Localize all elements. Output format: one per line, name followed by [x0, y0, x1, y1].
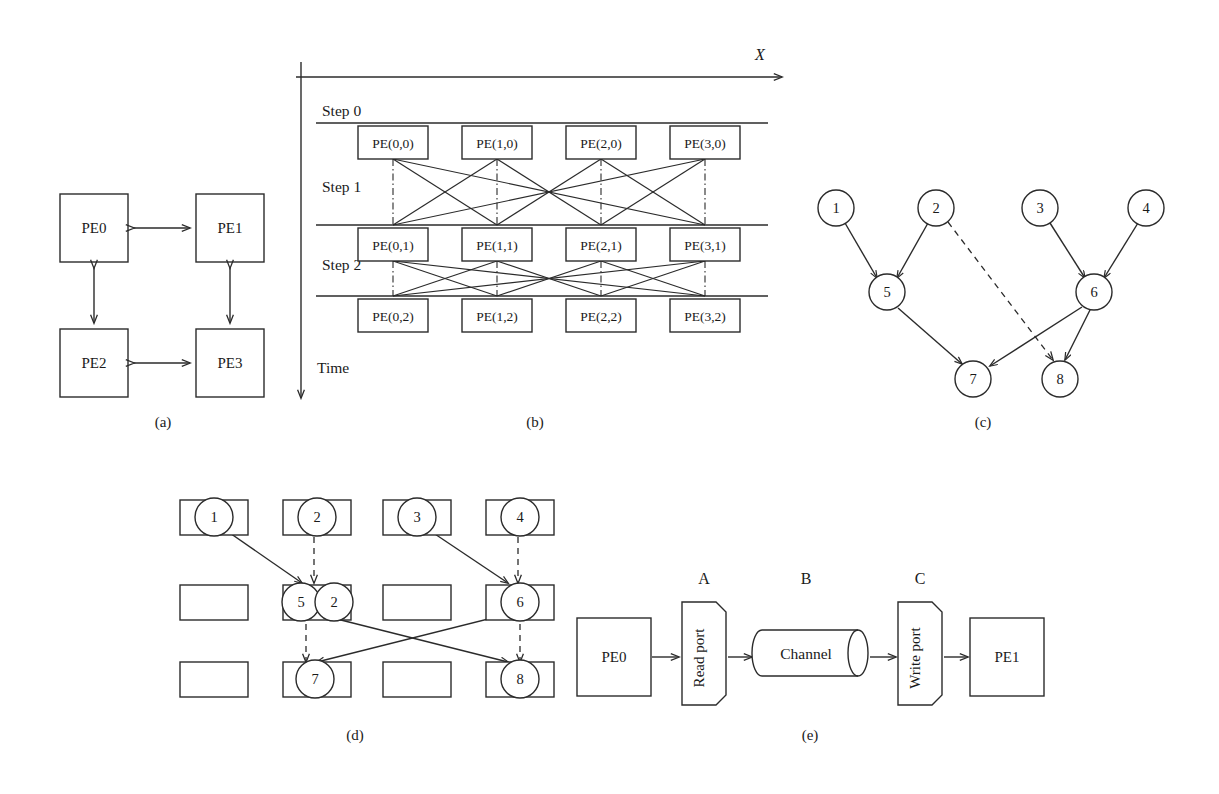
panel-b-cell-label-1-1: PE(1,1): [476, 238, 518, 253]
panel-b-axis-time-label: Time: [317, 359, 349, 376]
panel-b-cell-label-2-0: PE(0,2): [372, 309, 414, 324]
panel-c-edge-4-6: [1104, 223, 1138, 278]
panel-c-node-label-2: 2: [932, 200, 939, 216]
panel-c-node-label-4: 4: [1142, 200, 1150, 216]
figure-svg: PE0 PE1 PE2 PE3 (a) X Time Step 0 Step 1…: [0, 0, 1219, 794]
panel-e-label-pe0: PE0: [601, 649, 626, 665]
panel-b-crossings-0: [393, 159, 705, 225]
panel-d-node-label-4: 4: [516, 509, 524, 525]
panel-d-node-label-1: 1: [210, 509, 217, 525]
panel-c-node-label-1: 1: [832, 200, 839, 216]
panel-c-edge-6-7: [990, 307, 1082, 366]
panel-b-step-label-0: Step 0: [322, 102, 361, 119]
panel-c-edge-2-8: [948, 222, 1053, 360]
panel-e: PE0 Read port A Channel B Write port C: [577, 570, 1044, 744]
panel-d-slot-2-0: [180, 662, 248, 697]
panel-e-marker-c: C: [915, 570, 926, 587]
panel-c-edge-2-5: [897, 223, 928, 278]
panel-d-node-label-6: 6: [516, 594, 523, 610]
panel-a: PE0 PE1 PE2 PE3 (a): [60, 194, 264, 431]
panel-c-node-label-5: 5: [883, 284, 890, 300]
panel-b-cell-label-2-3: PE(3,2): [684, 309, 726, 324]
panel-d: 1 2 3 4 5 2 6 7 8 (d): [180, 498, 554, 744]
panel-b-cell-label-1-3: PE(3,1): [684, 238, 726, 253]
panel-d-node-label-8: 8: [516, 671, 523, 687]
panel-a-caption: (a): [155, 414, 172, 431]
panel-c-edge-1-5: [845, 223, 877, 278]
panel-c-edge-3-6: [1050, 223, 1085, 278]
panel-b-cell-label-0-3: PE(3,0): [684, 136, 726, 151]
panel-b-step-label-1: Step 1: [322, 178, 361, 195]
panel-b-crossings-1: [393, 261, 705, 296]
panel-b-cell-label-0-2: PE(2,0): [580, 136, 622, 151]
panel-c-node-label-6: 6: [1090, 284, 1097, 300]
panel-e-label-channel: Channel: [780, 645, 832, 662]
panel-d-node-label-2-copy: 2: [330, 594, 337, 610]
panel-d-node-label-3: 3: [413, 509, 420, 525]
panel-c-node-label-8: 8: [1056, 371, 1063, 387]
panel-b-cell-label-0-1: PE(1,0): [476, 136, 518, 151]
panel-a-label-pe1: PE1: [217, 220, 242, 236]
panel-c-edge-6-8: [1065, 310, 1090, 360]
panel-e-marker-b: B: [801, 570, 812, 587]
panel-e-label-pe1: PE1: [994, 649, 1019, 665]
panel-a-label-pe3: PE3: [217, 355, 242, 371]
panel-b: X Time Step 0 Step 1 Step 2: [296, 46, 782, 431]
panel-c: 1 2 3 4 5 6 7 8 (c): [818, 190, 1164, 431]
panel-b-cell-label-1-0: PE(0,1): [372, 238, 414, 253]
panel-d-slot-1-2: [383, 585, 451, 620]
panel-b-cell-label-0-0: PE(0,0): [372, 136, 414, 151]
panel-c-edge-5-7: [898, 308, 962, 364]
panel-c-caption: (c): [975, 414, 992, 431]
panel-c-node-label-3: 3: [1036, 200, 1043, 216]
panel-d-node-label-2: 2: [313, 509, 320, 525]
panel-b-caption: (b): [526, 414, 544, 431]
panel-e-label-write-port: Write port: [907, 626, 923, 688]
panel-b-step-label-2: Step 2: [322, 256, 361, 273]
panel-d-caption: (d): [346, 727, 364, 744]
panel-e-label-read-port: Read port: [691, 628, 707, 688]
panel-b-cell-label-1-2: PE(2,1): [580, 238, 622, 253]
panel-d-slot-1-0: [180, 585, 248, 620]
panel-c-node-label-7: 7: [969, 371, 976, 387]
panel-a-label-pe0: PE0: [81, 220, 106, 236]
panel-b-cell-label-2-1: PE(1,2): [476, 309, 518, 324]
panel-d-node-label-7: 7: [311, 671, 318, 687]
figure-canvas: PE0 PE1 PE2 PE3 (a) X Time Step 0 Step 1…: [0, 0, 1219, 794]
panel-d-slot-2-2: [383, 662, 451, 697]
panel-d-node-label-5: 5: [297, 594, 304, 610]
panel-b-axis-x-label: X: [754, 46, 766, 63]
panel-b-cell-label-2-2: PE(2,2): [580, 309, 622, 324]
panel-e-marker-a: A: [698, 570, 710, 587]
panel-a-label-pe2: PE2: [81, 355, 106, 371]
panel-e-caption: (e): [802, 727, 819, 744]
